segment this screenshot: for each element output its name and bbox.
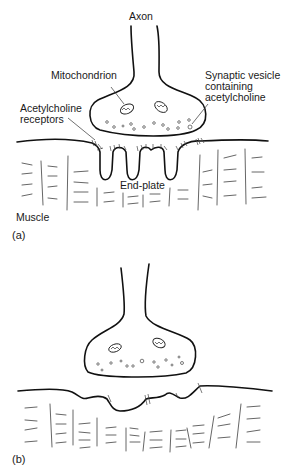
label-end-plate: End-plate [120,179,165,191]
postsynaptic-membrane-a [17,140,268,180]
panel-label-b: (b) [12,453,25,465]
neuromuscular-junction-diagram: Axon [0,0,283,474]
mitochondrion-b2 [151,336,166,349]
panel-b: (b) [12,264,272,465]
postsynaptic-membrane-b [18,386,272,411]
label-receptors-2: receptors [20,113,64,125]
label-axon: Axon [129,10,153,22]
acetylcholine-receptors-a [92,138,204,151]
label-synaptic-vesicle-3: acetylcholine [205,91,266,103]
acetylcholine-receptors-b [108,383,202,405]
muscle-fibers-b [25,404,260,452]
panel-a: Axon [12,10,280,241]
mitochondrion-a1 [119,102,135,116]
panel-label-a: (a) [12,229,25,241]
label-muscle: Muscle [16,211,49,223]
mitochondrion-b1 [108,342,123,354]
label-mitochondrion: Mitochondrion [51,69,117,81]
synaptic-vesicles-b [97,356,184,371]
axon-terminal-a [90,26,206,136]
axon-terminal-b [85,264,196,377]
mitochondrion-a2 [153,99,170,114]
synaptic-vesicles-a [106,119,192,131]
